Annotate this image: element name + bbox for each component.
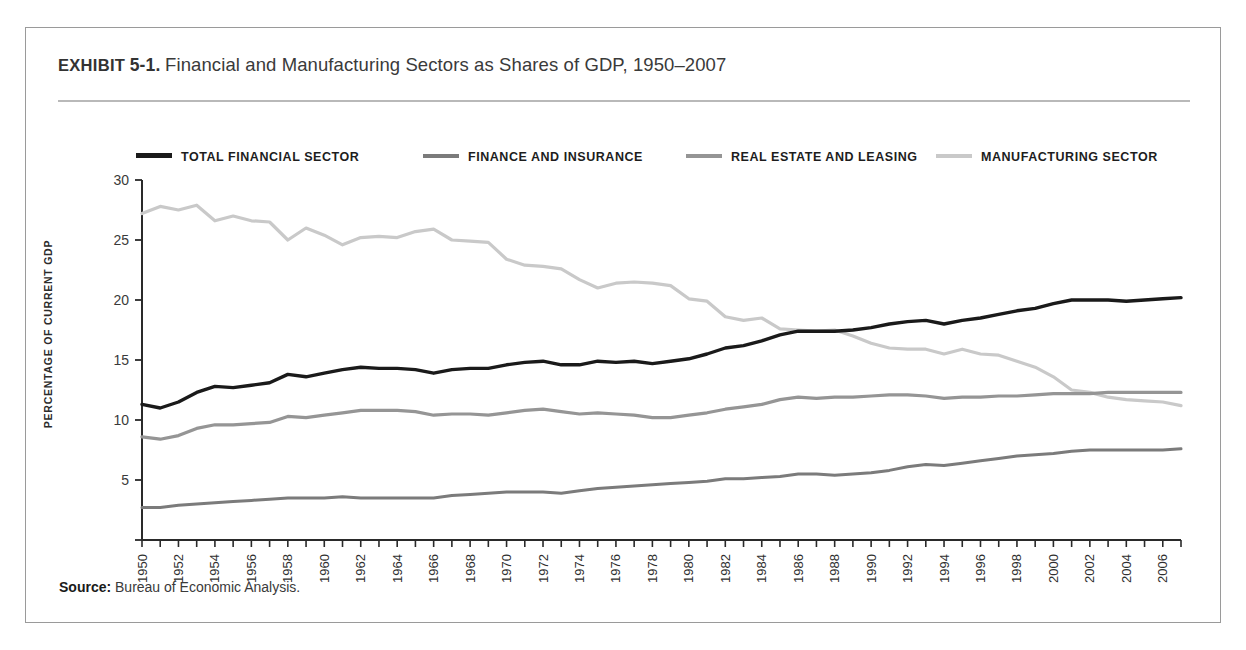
svg-text:1962: 1962 [353, 554, 368, 583]
source-label: Source: [59, 579, 111, 595]
source-text: Bureau of Economic Analysis. [115, 579, 300, 595]
svg-text:10: 10 [113, 412, 129, 428]
line-chart: 5101520253019501952195419561958196019621… [26, 28, 1222, 624]
svg-text:1960: 1960 [317, 554, 332, 583]
svg-text:25: 25 [113, 232, 129, 248]
svg-text:5: 5 [121, 472, 129, 488]
svg-text:1986: 1986 [791, 554, 806, 583]
svg-text:20: 20 [113, 292, 129, 308]
svg-text:1966: 1966 [426, 554, 441, 583]
chart-plot-area: PERCENTAGE OF CURRENT GDP 51015202530195… [26, 28, 1222, 624]
series-line [142, 449, 1181, 508]
svg-text:1974: 1974 [572, 554, 587, 583]
svg-text:15: 15 [113, 352, 129, 368]
svg-text:1968: 1968 [463, 554, 478, 583]
x-axis-ticks: 1950195219541956195819601962196419661968… [135, 540, 1182, 583]
svg-text:2004: 2004 [1119, 554, 1134, 583]
source-note: Source: Bureau of Economic Analysis. [59, 579, 300, 595]
svg-text:1980: 1980 [681, 554, 696, 583]
svg-text:1990: 1990 [864, 554, 879, 583]
svg-text:1998: 1998 [1009, 554, 1024, 583]
series-line [142, 298, 1181, 408]
svg-text:2000: 2000 [1046, 554, 1061, 583]
svg-text:1988: 1988 [827, 554, 842, 583]
svg-text:1972: 1972 [536, 554, 551, 583]
y-axis-title: PERCENTAGE OF CURRENT GDP [42, 204, 54, 464]
svg-text:1976: 1976 [608, 554, 623, 583]
svg-text:30: 30 [113, 172, 129, 188]
svg-text:1970: 1970 [499, 554, 514, 583]
svg-text:1982: 1982 [718, 554, 733, 583]
svg-text:1964: 1964 [390, 554, 405, 583]
svg-text:1994: 1994 [937, 554, 952, 583]
svg-text:1978: 1978 [645, 554, 660, 583]
svg-text:1984: 1984 [754, 554, 769, 583]
svg-text:2002: 2002 [1082, 554, 1097, 583]
exhibit-figure: EXHIBIT 5-1. Financial and Manufacturing… [25, 27, 1221, 623]
svg-text:1996: 1996 [973, 554, 988, 583]
svg-text:1992: 1992 [900, 554, 915, 583]
svg-text:2006: 2006 [1155, 554, 1170, 583]
series-line [142, 392, 1181, 439]
y-axis-ticks: 51015202530 [113, 172, 142, 540]
